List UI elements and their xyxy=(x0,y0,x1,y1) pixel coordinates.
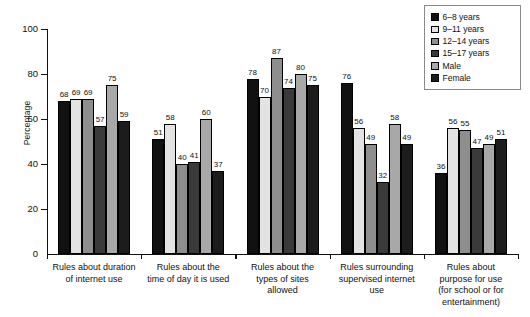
bar[interactable] xyxy=(176,164,188,254)
bar[interactable] xyxy=(106,85,118,254)
bar-column[interactable]: 49 xyxy=(401,29,413,254)
bar[interactable] xyxy=(200,119,212,254)
bar-column[interactable]: 69 xyxy=(70,29,82,254)
x-axis-label-line: Rules about the xyxy=(141,262,235,274)
bar-column[interactable]: 37 xyxy=(212,29,224,254)
legend-swatch-icon xyxy=(431,74,439,82)
bar-column[interactable]: 68 xyxy=(58,29,70,254)
x-tick-mark xyxy=(424,254,425,259)
y-tick-label: 40 xyxy=(8,159,38,169)
legend[interactable]: 6–8 years9–11 years12–14 years15–17 year… xyxy=(424,5,521,90)
bar-value-label: 49 xyxy=(366,134,375,142)
bar[interactable] xyxy=(283,88,295,255)
bar[interactable] xyxy=(483,144,495,254)
bar-column[interactable]: 59 xyxy=(118,29,130,254)
bar[interactable] xyxy=(164,124,176,255)
bar-column[interactable]: 58 xyxy=(389,29,401,254)
bar[interactable] xyxy=(495,139,507,254)
bar[interactable] xyxy=(389,124,401,255)
bar[interactable] xyxy=(94,126,106,254)
bar[interactable] xyxy=(152,139,164,254)
bar-column[interactable]: 76 xyxy=(341,29,353,254)
bar-column[interactable]: 56 xyxy=(353,29,365,254)
bar[interactable] xyxy=(70,99,82,254)
bar-column[interactable]: 78 xyxy=(247,29,259,254)
x-axis-label: Rules surroundingsupervised internetuse xyxy=(330,262,424,297)
legend-swatch-icon xyxy=(431,62,439,70)
bar-value-label: 36 xyxy=(436,163,445,171)
legend-swatch-icon xyxy=(431,50,439,58)
bar-value-label: 49 xyxy=(402,134,411,142)
bar[interactable] xyxy=(365,144,377,254)
bar-column[interactable]: 60 xyxy=(200,29,212,254)
grouped-bar-chart: Percentage 020406080100 6869695775595158… xyxy=(0,0,530,317)
bar-column[interactable]: 41 xyxy=(188,29,200,254)
bar[interactable] xyxy=(401,144,413,254)
bar-value-label: 57 xyxy=(96,116,105,124)
bar[interactable] xyxy=(447,128,459,254)
bar-column[interactable]: 70 xyxy=(259,29,271,254)
bar-column[interactable]: 69 xyxy=(82,29,94,254)
x-tick-mark xyxy=(330,254,331,259)
bar[interactable] xyxy=(82,99,94,254)
bar-value-label: 59 xyxy=(120,111,129,119)
legend-item[interactable]: 15–17 years xyxy=(431,48,516,60)
bar[interactable] xyxy=(188,162,200,254)
bar[interactable] xyxy=(471,148,483,254)
bar-column[interactable]: 74 xyxy=(283,29,295,254)
bar[interactable] xyxy=(271,58,283,254)
bar-column[interactable]: 75 xyxy=(106,29,118,254)
legend-label: 6–8 years xyxy=(443,13,480,22)
bar[interactable] xyxy=(58,101,70,254)
bar-column[interactable]: 40 xyxy=(176,29,188,254)
x-axis-label-line: types of sites xyxy=(235,274,329,286)
legend-label: 9–11 years xyxy=(443,25,484,34)
y-tick-label: 60 xyxy=(8,114,38,124)
legend-item[interactable]: Female xyxy=(431,72,516,84)
bar[interactable] xyxy=(295,74,307,254)
bar-column[interactable]: 75 xyxy=(307,29,319,254)
bar-group: 686969577559 xyxy=(58,29,130,254)
legend-item[interactable]: 6–8 years xyxy=(431,11,516,23)
bar-value-label: 55 xyxy=(460,120,469,128)
x-axis-label-line: Rules surrounding xyxy=(330,262,424,274)
bar[interactable] xyxy=(377,182,389,254)
legend-item[interactable]: 9–11 years xyxy=(431,23,516,35)
legend-swatch-icon xyxy=(431,38,439,46)
legend-label: Female xyxy=(443,74,471,83)
bar[interactable] xyxy=(247,79,259,255)
legend-item[interactable]: 12–14 years xyxy=(431,35,516,47)
bar[interactable] xyxy=(353,128,365,254)
bar-column[interactable]: 49 xyxy=(365,29,377,254)
x-tick-mark xyxy=(235,254,236,259)
x-axis-label-line: (for school or for xyxy=(424,285,518,297)
bar-value-label: 70 xyxy=(260,87,269,95)
x-axis-label-line: entertainment) xyxy=(424,297,518,309)
bar-column[interactable]: 57 xyxy=(94,29,106,254)
legend-label: Male xyxy=(443,62,461,71)
bar-value-label: 58 xyxy=(166,114,175,122)
bar[interactable] xyxy=(341,83,353,254)
bar-group: 765649325849 xyxy=(341,29,413,254)
bar-value-label: 56 xyxy=(448,118,457,126)
bar-column[interactable]: 32 xyxy=(377,29,389,254)
x-tick-mark xyxy=(518,254,519,259)
bar[interactable] xyxy=(259,97,271,255)
bar[interactable] xyxy=(459,130,471,254)
bar-value-label: 75 xyxy=(308,75,317,83)
x-axis-label: Rules about thetypes of sitesallowed xyxy=(235,262,329,297)
bar[interactable] xyxy=(307,85,319,254)
bar-column[interactable]: 80 xyxy=(295,29,307,254)
bar-value-label: 78 xyxy=(248,69,257,77)
bar-column[interactable]: 51 xyxy=(152,29,164,254)
legend-item[interactable]: Male xyxy=(431,60,516,72)
bar[interactable] xyxy=(118,121,130,254)
bar[interactable] xyxy=(212,171,224,254)
x-axis-label-line: Rules about the xyxy=(235,262,329,274)
bar-column[interactable]: 58 xyxy=(164,29,176,254)
bar[interactable] xyxy=(435,173,447,254)
x-axis-label-line: time of day it is used xyxy=(141,274,235,286)
bar-value-label: 69 xyxy=(84,89,93,97)
x-axis-label-line: purpose for use xyxy=(424,274,518,286)
bar-column[interactable]: 87 xyxy=(271,29,283,254)
